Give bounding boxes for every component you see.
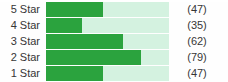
rating-count-2-star: (79) [169, 50, 221, 65]
rating-count-3-star: (62) [169, 34, 221, 49]
rating-count-1-star: (47) [169, 66, 221, 81]
rating-bar-fill-5-star [46, 2, 103, 17]
rating-bar-fill-4-star [46, 18, 82, 33]
rating-bar-track-2-star [46, 50, 169, 65]
rating-row-5-star: 5 Star (47) [0, 2, 228, 17]
rating-label-5-star: 5 Star [0, 2, 46, 17]
rating-row-2-star: 2 Star (79) [0, 50, 228, 65]
rating-count-4-star: (35) [169, 18, 221, 33]
rating-bar-track-4-star [46, 18, 169, 33]
rating-label-3-star: 3 Star [0, 34, 46, 49]
rating-count-5-star: (47) [169, 2, 221, 17]
rating-label-4-star: 4 Star [0, 18, 46, 33]
rating-bar-fill-2-star [46, 50, 141, 65]
rating-row-4-star: 4 Star (35) [0, 18, 228, 33]
rating-row-1-star: 1 Star (47) [0, 66, 228, 81]
rating-bar-fill-1-star [46, 66, 103, 81]
rating-bar-track-5-star [46, 2, 169, 17]
rating-label-1-star: 1 Star [0, 66, 46, 81]
rating-label-2-star: 2 Star [0, 50, 46, 65]
rating-row-3-star: 3 Star (62) [0, 34, 228, 49]
rating-bar-track-3-star [46, 34, 169, 49]
rating-bar-fill-3-star [46, 34, 123, 49]
star-rating-distribution-chart: 5 Star (47) 4 Star (35) 3 Star (62) 2 St… [0, 2, 228, 82]
rating-bar-track-1-star [46, 66, 169, 81]
